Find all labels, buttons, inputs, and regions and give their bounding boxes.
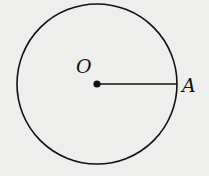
center-label: O (76, 55, 92, 77)
center-point (93, 80, 100, 87)
point-a-label: A (180, 74, 196, 96)
circle-diagram: O A (0, 0, 209, 176)
